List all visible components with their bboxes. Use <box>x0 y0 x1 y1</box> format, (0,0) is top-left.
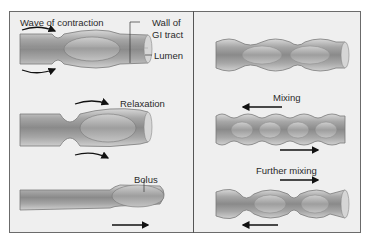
peristalsis-tube-2 <box>20 101 152 158</box>
label-bolus: Bolus <box>134 174 158 185</box>
segmentation-tube-3 <box>216 189 349 218</box>
label-relaxation: Relaxation <box>120 98 165 109</box>
diagram-illustration <box>0 0 371 245</box>
peristalsis-tube-3 <box>20 180 164 225</box>
segmentation-tube-2 <box>216 114 345 145</box>
peristalsis-tube-1 <box>20 22 152 73</box>
label-mixing: Mixing <box>273 92 300 103</box>
label-wall-of-gi-tract-1: Wall of <box>152 17 181 28</box>
label-wall-of-gi-tract-2: GI tract <box>152 29 183 40</box>
segmentation-tube-1 <box>216 39 349 71</box>
label-lumen: Lumen <box>154 50 183 61</box>
label-further-mixing: Further mixing <box>256 165 317 176</box>
label-wave-of-contraction: Wave of contraction <box>20 17 104 28</box>
